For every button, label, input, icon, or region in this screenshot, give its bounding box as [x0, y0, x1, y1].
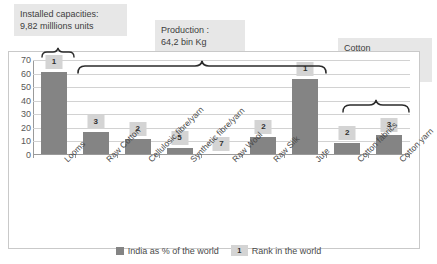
x-axis-line — [33, 154, 410, 155]
chart-root: Installed capacities: 9,82 milllions uni… — [0, 0, 437, 264]
y-tick-label: 40 — [5, 96, 31, 105]
rank-badge-swatch: 1 — [231, 245, 248, 256]
rank-badge: 1 — [45, 55, 62, 69]
y-tick-label: 20 — [5, 123, 31, 132]
rank-badge: 3 — [87, 115, 104, 129]
bar[interactable] — [83, 132, 109, 155]
callout-installed-capacities: Installed capacities: 9,82 milllions uni… — [14, 4, 127, 36]
y-tick-label: 0 — [5, 151, 31, 160]
y-axis-ticks: 706050403020100 — [4, 60, 31, 155]
legend-item-rank: 1 Rank in the world — [225, 245, 322, 256]
legend-item-series: India as % of the world — [116, 246, 219, 256]
x-category-label: Raw Silk — [271, 157, 278, 164]
legend-series-label: India as % of the world — [128, 246, 219, 256]
x-category-label: Cotton yarn — [397, 157, 404, 164]
x-category-label: Synthetic fibre/yarn — [188, 157, 195, 164]
y-tick-label: 50 — [5, 83, 31, 92]
x-category-label: Raw Wool — [230, 157, 237, 164]
x-category-label: Jute — [313, 157, 320, 164]
rank-badge: 1 — [297, 62, 314, 76]
series-color-swatch — [116, 247, 124, 255]
x-category-label: Cellulosic fibre/yarn — [146, 157, 153, 164]
x-category-label: Raw Cotton — [104, 157, 111, 164]
y-tick-label: 10 — [5, 137, 31, 146]
bar-series: 132572123 — [33, 60, 410, 155]
bar[interactable] — [41, 72, 67, 155]
legend-rank-label: Rank in the world — [252, 246, 322, 256]
x-category-label: Looms — [62, 157, 69, 164]
y-tick-label: 70 — [5, 56, 31, 65]
plot-area: 132572123 — [33, 60, 410, 155]
rank-badge: 2 — [339, 126, 356, 140]
x-axis-category-labels: LoomsRaw CottonCellulosic fibre/yarnSynt… — [33, 157, 410, 215]
x-category-label: Cotton fabrics — [355, 157, 362, 164]
chart-legend: India as % of the world 1 Rank in the wo… — [0, 245, 437, 256]
callout-production: Production : 64,2 bin Kg — [155, 20, 245, 52]
bar-slot: 1 — [33, 60, 75, 155]
bar-slot: 2 — [326, 60, 368, 155]
y-tick-label: 60 — [5, 69, 31, 78]
y-tick-label: 30 — [5, 110, 31, 119]
